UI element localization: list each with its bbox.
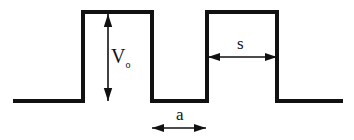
figure-canvas: Vo a s: [0, 0, 354, 140]
well-width-label: a: [176, 105, 184, 124]
well-width-dimension: [152, 124, 206, 132]
a-arrowhead-right: [194, 124, 206, 132]
potential-barrier-figure: Vo a s: [0, 0, 354, 140]
barrier-width-label: s: [237, 34, 244, 53]
barrier-height-label: Vo: [111, 45, 130, 70]
vo-arrowhead-top: [104, 14, 112, 27]
vo-arrowhead-bottom: [104, 88, 112, 101]
a-arrowhead-left: [152, 124, 164, 132]
potential-energy-curve: [13, 12, 343, 101]
s-arrowhead-left: [208, 53, 220, 61]
barrier-width-dimension: [208, 53, 277, 61]
barrier-height-label-base: V: [111, 45, 126, 67]
barrier-height-label-subscript: o: [125, 59, 130, 70]
